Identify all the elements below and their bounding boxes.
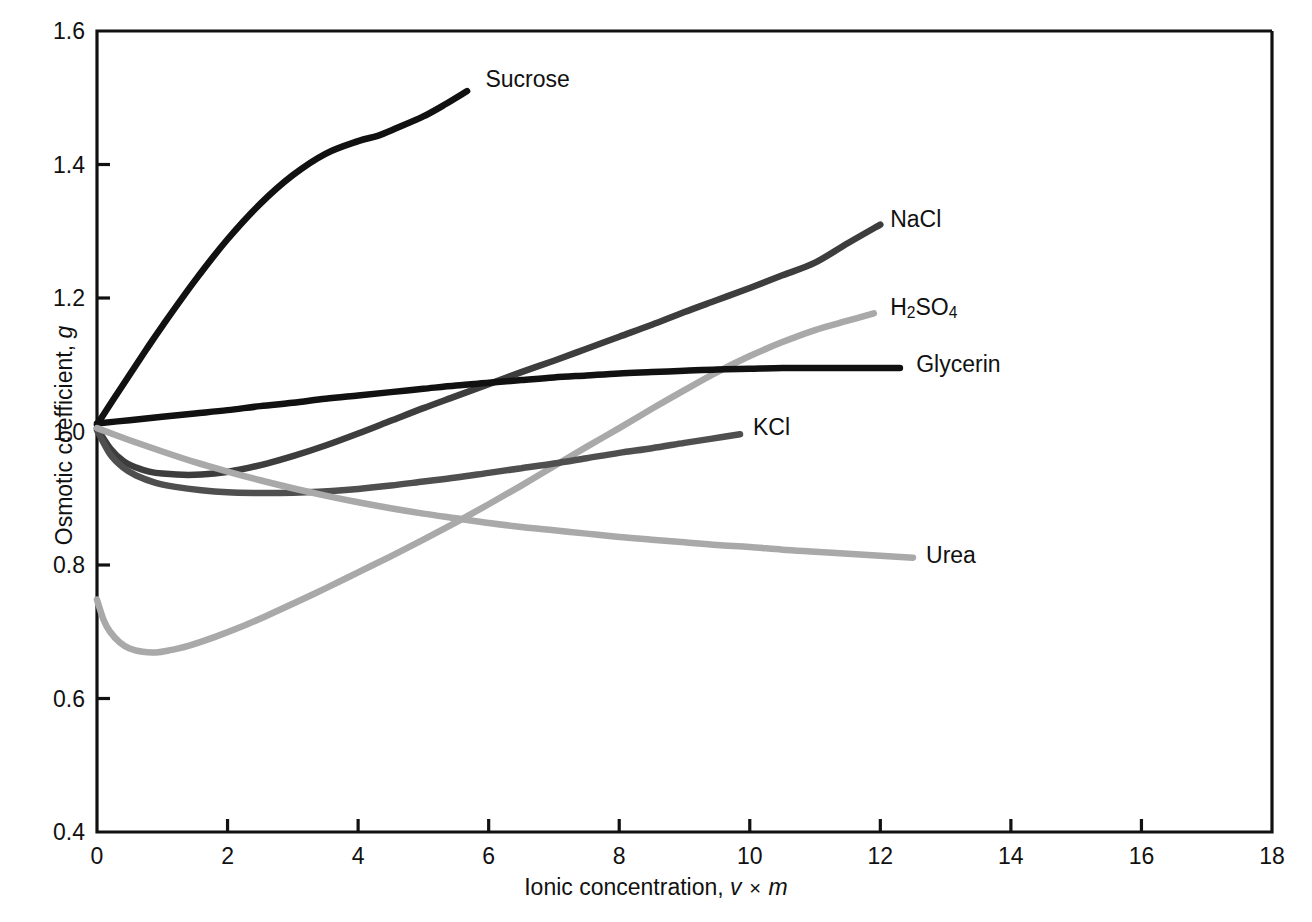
x-tick-label-12: 12 [840, 845, 920, 868]
x-tick-label-8: 8 [579, 845, 659, 868]
y-axis-title: Osmotic coefficient, g [53, 156, 76, 716]
y-tick-label-1.6: 1.6 [1, 20, 85, 43]
series-label-sucrose: Sucrose [485, 68, 569, 91]
x-axis-title: Ionic concentration, v × m [0, 876, 1312, 899]
osmotic-coefficient-chart: 0.40.60.81.01.21.41.6024681012141618 Suc… [0, 0, 1312, 922]
series-line-h2so4 [97, 313, 874, 652]
series-label-nacl: NaCl [890, 208, 941, 231]
axis-frame [97, 31, 1272, 832]
x-tick-label-6: 6 [449, 845, 529, 868]
series-label-urea: Urea [926, 544, 976, 567]
series-label-kcl: KCl [753, 416, 790, 439]
series-label-glycerin: Glycerin [916, 353, 1000, 376]
x-tick-label-2: 2 [188, 845, 268, 868]
x-tick-label-4: 4 [318, 845, 398, 868]
x-tick-label-14: 14 [971, 845, 1051, 868]
y-tick-label-0.4: 0.4 [1, 821, 85, 844]
plot-canvas [0, 0, 1312, 922]
x-tick-label-18: 18 [1232, 845, 1312, 868]
x-tick-label-0: 0 [57, 845, 137, 868]
x-tick-label-10: 10 [710, 845, 790, 868]
series-line-sucrose [97, 91, 467, 425]
x-tick-label-16: 16 [1101, 845, 1181, 868]
series-label-h2so4: H2SO4 [890, 296, 957, 321]
